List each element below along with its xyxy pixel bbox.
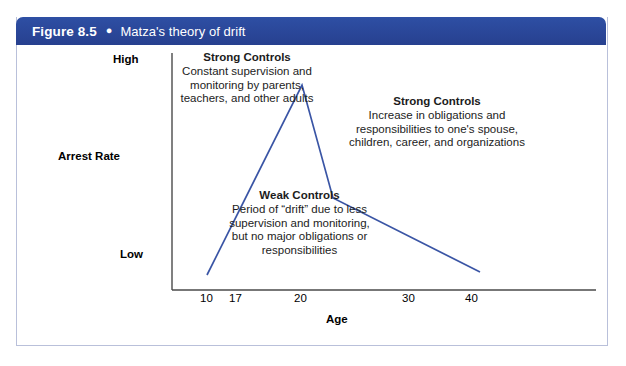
y-axis-title: Arrest Rate	[58, 150, 120, 162]
x-tick-10: 10	[200, 292, 213, 304]
x-axis-title: Age	[326, 313, 348, 325]
annotation-heading: Strong Controls	[344, 95, 530, 108]
annotation-strong-controls-early: Strong Controls Constant supervision and…	[171, 51, 323, 106]
figure-header-bar: Figure 8.5 ● Matza's theory of drift	[16, 17, 606, 45]
y-axis-low-label: Low	[120, 248, 143, 260]
annotation-heading: Weak Controls	[222, 189, 377, 202]
annotation-body: Increase in obligations and responsibili…	[344, 109, 530, 149]
annotation-weak-controls: Weak Controls Period of “drift” due to l…	[222, 189, 377, 257]
annotation-body: Constant supervision and monitoring by p…	[171, 65, 323, 105]
annotation-body: Period of “drift” due to less supervisio…	[222, 203, 377, 257]
annotation-strong-controls-late: Strong Controls Increase in obligations …	[344, 95, 530, 150]
chart-plot-area: High Arrest Rate Low Age 10 17 20 30 40 …	[16, 45, 608, 346]
x-tick-40: 40	[465, 292, 478, 304]
y-axis-high-label: High	[113, 53, 139, 65]
figure-number: Figure 8.5	[32, 24, 97, 39]
x-tick-20: 20	[294, 292, 307, 304]
x-tick-30: 30	[402, 292, 415, 304]
annotation-heading: Strong Controls	[171, 51, 323, 64]
page-header-remnant	[300, 0, 600, 7]
figure-title: Matza's theory of drift	[120, 24, 245, 39]
x-tick-17: 17	[229, 292, 242, 304]
bullet-separator-icon: ●	[106, 25, 113, 36]
